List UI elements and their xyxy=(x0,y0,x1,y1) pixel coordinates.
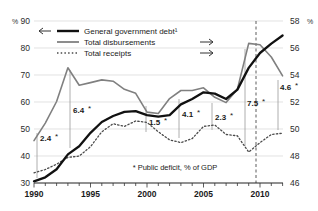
y-axis-left-unit: % xyxy=(12,18,18,25)
government-finance-chart: 90 80 70 60 50 40 30 % 58 56 54 52 50 48… xyxy=(0,0,318,211)
deficit-star-1990: * xyxy=(55,132,58,141)
chart-footnote: * Public deficit, % of GDP xyxy=(133,163,218,172)
deficit-star-2006: * xyxy=(230,111,233,120)
legend-label-total-disbursements: Total disbursements xyxy=(84,38,155,47)
deficit-star-2003: * xyxy=(197,108,200,117)
xlabel-2005: 2005 xyxy=(194,189,213,199)
ytick-right-46: 46 xyxy=(290,178,300,188)
deficit-star-2000: * xyxy=(164,116,167,125)
deficit-star-2009: * xyxy=(262,97,265,106)
deficit-star-1993: * xyxy=(88,104,91,113)
legend-label-total-receipts: Total receipts xyxy=(84,49,131,58)
ytick-left-40: 40 xyxy=(21,151,31,161)
xlabel-2000: 2000 xyxy=(138,189,157,199)
ytick-right-48: 48 xyxy=(290,151,300,161)
ytick-left-90: 90 xyxy=(21,16,31,26)
ytick-right-52: 52 xyxy=(290,97,300,107)
deficit-label-1993: 6.4 xyxy=(73,106,85,115)
y-axis-right-unit: % xyxy=(307,18,313,25)
ytick-right-50: 50 xyxy=(290,124,300,134)
ytick-left-70: 70 xyxy=(21,70,31,80)
deficit-label-1990: 2.4 xyxy=(40,134,52,143)
xlabel-1990: 1990 xyxy=(25,189,44,199)
ytick-left-60: 60 xyxy=(21,97,31,107)
deficit-label-2012: 4.6 xyxy=(280,83,292,92)
xlabel-2010: 2010 xyxy=(251,189,270,199)
ytick-left-30: 30 xyxy=(21,178,31,188)
deficit-star-2012: * xyxy=(295,81,298,90)
deficit-label-2003: 4.1 xyxy=(182,110,194,119)
ytick-right-58: 58 xyxy=(290,16,300,26)
ytick-right-54: 54 xyxy=(290,70,300,80)
xlabel-1995: 1995 xyxy=(81,189,100,199)
deficit-label-2006: 2.3 xyxy=(215,113,227,122)
chart-container: 90 80 70 60 50 40 30 % 58 56 54 52 50 48… xyxy=(0,0,318,211)
ytick-left-50: 50 xyxy=(21,124,31,134)
legend-label-government-debt: General government debt¹ xyxy=(84,27,178,36)
ytick-right-56: 56 xyxy=(290,43,300,53)
ytick-left-80: 80 xyxy=(21,43,31,53)
deficit-label-2000: 1.5 xyxy=(149,118,161,127)
deficit-label-2009: 7.5 xyxy=(247,99,259,108)
